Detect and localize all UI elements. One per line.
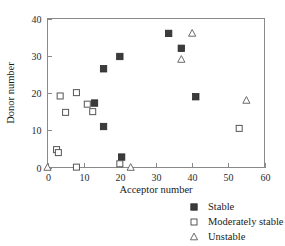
- data-point: [178, 56, 185, 63]
- data-point: [118, 154, 124, 160]
- x-tick-label-60: 60: [261, 172, 271, 183]
- y-tick-label-40: 40: [32, 14, 42, 25]
- x-tick-label-50: 50: [224, 172, 234, 183]
- data-point: [91, 100, 97, 106]
- x-tick-label-30: 30: [152, 172, 162, 183]
- data-markers-group: [44, 30, 250, 171]
- y-tick-label-10: 10: [32, 125, 42, 136]
- y-tick-label-30: 30: [32, 51, 42, 62]
- series-stable: [91, 30, 199, 160]
- y-tick-label-20: 20: [32, 88, 42, 99]
- chart-legend: StableModerately stableUnstable: [190, 201, 283, 242]
- data-point: [117, 53, 123, 59]
- data-point: [63, 109, 69, 115]
- data-point: [165, 30, 171, 36]
- scatter-plot-figure: 0102030405060010203040 Acceptor number D…: [0, 0, 285, 246]
- legend-label-moderately-stable: Moderately stable: [208, 216, 284, 227]
- data-point: [178, 45, 184, 51]
- series-unstable: [44, 30, 250, 171]
- x-tick-label-40: 40: [188, 172, 198, 183]
- data-point: [193, 94, 199, 100]
- data-point: [73, 90, 79, 96]
- plot-canvas: 0102030405060010203040 Acceptor number D…: [0, 0, 285, 246]
- legend-label-unstable: Unstable: [208, 231, 246, 242]
- legend-label-stable: Stable: [208, 201, 235, 212]
- x-tick-label-10: 10: [80, 172, 90, 183]
- legend-marker-open-triangle: [190, 233, 197, 240]
- data-point: [55, 150, 61, 156]
- x-tick-label-0: 0: [46, 172, 51, 183]
- y-tick-label-0: 0: [37, 163, 42, 174]
- data-point: [243, 97, 250, 104]
- x-tick-label-20: 20: [116, 172, 126, 183]
- data-point: [100, 123, 106, 129]
- series-moderately-stable: [54, 90, 243, 171]
- data-point: [236, 125, 242, 131]
- ticks-group: 0102030405060010203040: [32, 14, 271, 183]
- data-point: [84, 101, 90, 107]
- data-point: [100, 66, 106, 72]
- data-point: [90, 109, 96, 115]
- data-point: [117, 161, 123, 167]
- y-axis-title: Donor number: [5, 62, 16, 124]
- data-point: [57, 93, 63, 99]
- legend-marker-filled-square: [191, 204, 197, 210]
- data-point: [189, 30, 196, 37]
- data-point: [73, 164, 79, 170]
- legend-marker-open-square: [191, 219, 197, 225]
- x-axis-title: Acceptor number: [119, 184, 193, 195]
